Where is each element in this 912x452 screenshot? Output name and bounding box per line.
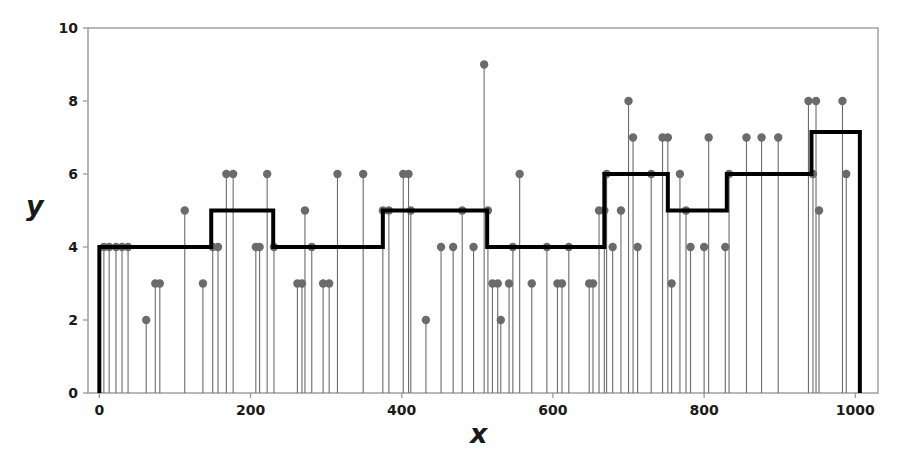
svg-text:600: 600 — [538, 402, 567, 418]
svg-text:400: 400 — [387, 402, 416, 418]
svg-text:8: 8 — [68, 93, 78, 109]
svg-text:10: 10 — [59, 20, 79, 36]
x-axis-title: x — [470, 418, 487, 449]
svg-text:0: 0 — [68, 385, 78, 401]
svg-text:0: 0 — [94, 402, 104, 418]
y-axis-title: y — [26, 190, 44, 221]
svg-text:2: 2 — [68, 312, 78, 328]
svg-text:4: 4 — [68, 239, 78, 255]
svg-text:200: 200 — [236, 402, 265, 418]
svg-text:1000: 1000 — [836, 402, 875, 418]
chart-figure: 020040060080010000246810 y x — [0, 0, 912, 452]
step-series — [99, 132, 860, 393]
svg-text:6: 6 — [68, 166, 78, 182]
axis-ticks: 020040060080010000246810 — [59, 20, 876, 418]
svg-text:800: 800 — [690, 402, 719, 418]
chart-canvas: 020040060080010000246810 — [0, 0, 912, 452]
